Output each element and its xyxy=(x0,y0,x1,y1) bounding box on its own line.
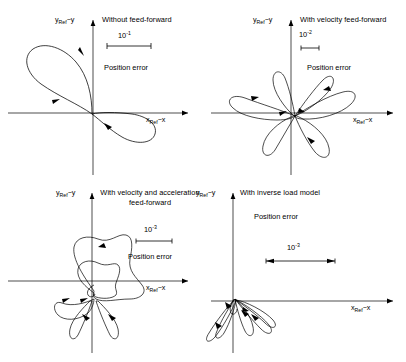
scale-value: 10-3 xyxy=(144,225,157,235)
position-error-label: Position error xyxy=(307,64,351,73)
y-axis-label: yRef−y xyxy=(253,16,272,26)
y-axis-label: yRef−y xyxy=(196,189,215,199)
arrowhead-left xyxy=(215,322,222,329)
x-axis-arrowhead xyxy=(182,111,188,116)
arrowhead-center-left xyxy=(279,111,287,116)
scale-bar xyxy=(134,237,176,245)
spike-far-left xyxy=(207,299,236,341)
x-axis-label: xRef−x xyxy=(146,284,165,294)
y-axis-arrowhead xyxy=(231,193,236,199)
lower-left-spike xyxy=(70,301,92,339)
arrowhead-lower-right xyxy=(108,314,116,321)
position-error-label: Position error xyxy=(254,213,298,222)
loop-upper xyxy=(273,72,295,116)
y-axis-arrowhead xyxy=(90,193,95,199)
arrowhead-upper-right xyxy=(242,307,249,312)
y-axis-arrowhead xyxy=(289,20,294,26)
panel-title: With inverse load model xyxy=(240,189,320,198)
position-error-label: Position error xyxy=(128,253,172,262)
scale-value: 10-1 xyxy=(118,31,131,41)
x-axis-arrowhead xyxy=(182,279,188,284)
loop-lower-right xyxy=(295,116,329,158)
arrowhead-lower-left xyxy=(52,99,60,104)
arrowhead-upper xyxy=(78,47,84,56)
panel-with-inverse-load-model: yRef−y With inverse load model Position … xyxy=(203,181,406,362)
scale-bar xyxy=(105,42,155,50)
panel-1-plot xyxy=(0,0,203,181)
loop-left xyxy=(229,96,295,120)
panel-title: Without feed-forward xyxy=(102,16,172,25)
panel-title-line-1: With velocity and acceleration xyxy=(99,188,201,198)
arrowhead-left xyxy=(62,298,70,303)
x-axis-label: xRef−x xyxy=(353,116,372,126)
panel-with-velocity-and-acceleration-feed-forward: yRef−y With velocity and acceleration fe… xyxy=(0,181,203,362)
left-lower-lobe xyxy=(55,299,94,319)
lower-right-spike xyxy=(96,301,118,339)
error-trajectory-figure: yRef−y Without feed-forward 10-1 Positio… xyxy=(0,0,406,362)
scale-bar xyxy=(299,44,323,52)
inner-contour xyxy=(78,261,120,298)
arrowhead-left xyxy=(251,96,259,101)
arrowhead-top xyxy=(98,243,106,248)
upper-left-lobe xyxy=(27,46,92,114)
scale-bar xyxy=(263,257,339,265)
y-axis-label: yRef−y xyxy=(55,16,74,26)
panel-with-velocity-feed-forward: yRef−y With velocity feed-forward 10-2 P… xyxy=(203,0,406,181)
arrowhead-upper-right xyxy=(323,86,331,91)
x-axis-arrowhead xyxy=(387,111,393,116)
loop-lower-left xyxy=(263,116,295,156)
panel-title: With velocity feed-forward xyxy=(300,16,386,25)
x-axis-label: xRef−x xyxy=(146,116,165,126)
y-axis-label: yRef−y xyxy=(56,189,75,199)
panel-3-plot xyxy=(0,181,203,362)
position-error-label: Position error xyxy=(104,64,148,73)
scale-value: 10-2 xyxy=(299,30,312,40)
x-axis-label: xRef−x xyxy=(351,304,370,314)
panel-title: With velocity and acceleration feed-forw… xyxy=(99,188,201,208)
panel-title-line-2: feed-forward xyxy=(99,198,201,208)
x-axis-arrowhead xyxy=(387,299,393,304)
arrowhead-lower-left xyxy=(82,314,90,321)
panel-2-plot xyxy=(203,0,406,181)
scale-value: 10-3 xyxy=(287,243,300,253)
y-axis-arrowhead xyxy=(91,20,96,26)
panel-4-plot xyxy=(203,181,406,362)
panel-without-feed-forward: yRef−y Without feed-forward 10-1 Positio… xyxy=(0,0,203,181)
